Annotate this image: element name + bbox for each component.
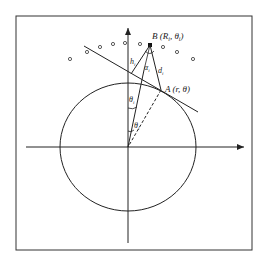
tangent-line (84, 46, 198, 112)
label-b: B (Ri, θi) (152, 31, 184, 42)
label-theta: θi (134, 121, 140, 131)
label-a: A (r, θ) (164, 84, 190, 94)
label-h: hi (130, 57, 136, 67)
line-radius-a (128, 90, 161, 147)
diagram-canvas: B (Ri, θi) A (r, θ) hi αi di θi θi (0, 0, 269, 268)
label-alpha: αi (144, 63, 150, 73)
frame (16, 16, 252, 250)
label-theta-i: θi (129, 95, 135, 105)
label-d: di (158, 66, 164, 76)
